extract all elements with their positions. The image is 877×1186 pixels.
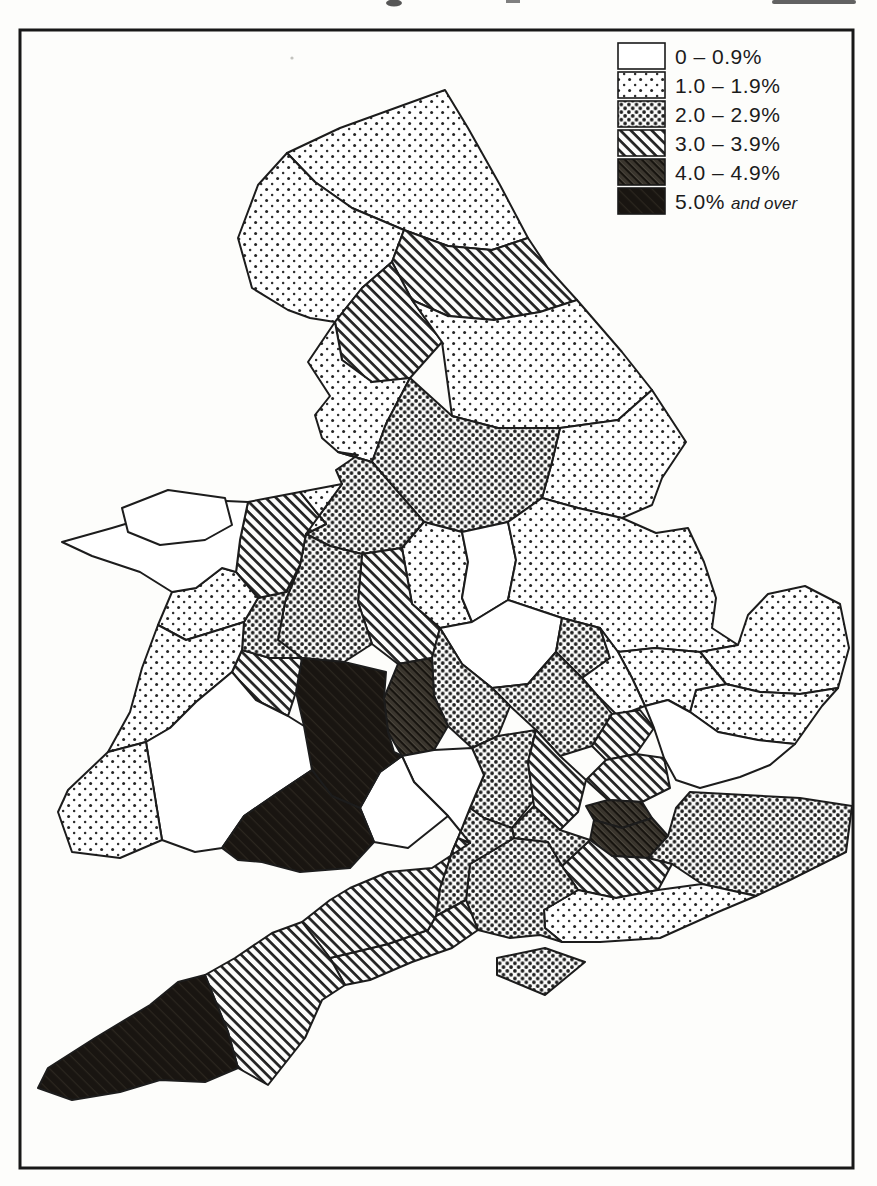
- legend-label-c4: 3.0 – 3.9%: [675, 132, 780, 155]
- legend-label-c2: 1.0 – 1.9%: [675, 74, 780, 97]
- legend-swatch-c4: [618, 130, 665, 156]
- legend-label-suffix-c6: and over: [731, 194, 798, 213]
- legend-swatch-c2: [618, 72, 665, 98]
- scanned-map-figure: 0 – 0.9%1.0 – 1.9%2.0 – 2.9%3.0 – 3.9%4.…: [0, 0, 877, 1186]
- legend-label-c3: 2.0 – 2.9%: [675, 103, 780, 126]
- legend-swatch-c3: [618, 101, 665, 127]
- legend-label-c6: 5.0%: [675, 190, 725, 213]
- legend-swatch-c5: [618, 159, 665, 185]
- england-wales-choropleth: 0 – 0.9%1.0 – 1.9%2.0 – 2.9%3.0 – 3.9%4.…: [0, 0, 877, 1186]
- legend-swatch-c6: [618, 188, 665, 214]
- legend-label-c1: 0 – 0.9%: [675, 45, 762, 68]
- legend-swatch-c1: [618, 43, 665, 69]
- legend-label-c5: 4.0 – 4.9%: [675, 161, 780, 184]
